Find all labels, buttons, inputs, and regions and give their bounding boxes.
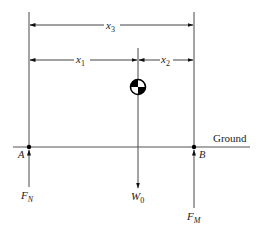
force-fm-label: FM <box>186 210 202 225</box>
dimension-x1: x1 <box>30 53 137 68</box>
svg-text:x1: x1 <box>75 53 85 68</box>
x1-sub: 1 <box>81 59 85 68</box>
x2-sub: 2 <box>166 59 170 68</box>
center-of-mass-icon <box>131 80 146 95</box>
dimension-x2: x2 <box>139 53 193 68</box>
free-body-diagram: x3 x1 x2 Ground A B <box>0 0 263 236</box>
svg-text:x2: x2 <box>160 53 170 68</box>
x3-sub: 3 <box>111 25 115 34</box>
point-a <box>27 145 31 149</box>
force-fn-label: FN <box>20 189 34 204</box>
point-b <box>192 145 196 149</box>
point-b-label: B <box>199 149 206 160</box>
force-w0-label: W0 <box>131 190 144 205</box>
dimension-x3: x3 <box>30 19 193 34</box>
svg-text:x3: x3 <box>105 19 115 34</box>
point-a-label: A <box>17 149 25 160</box>
ground-label: Ground <box>213 132 247 144</box>
